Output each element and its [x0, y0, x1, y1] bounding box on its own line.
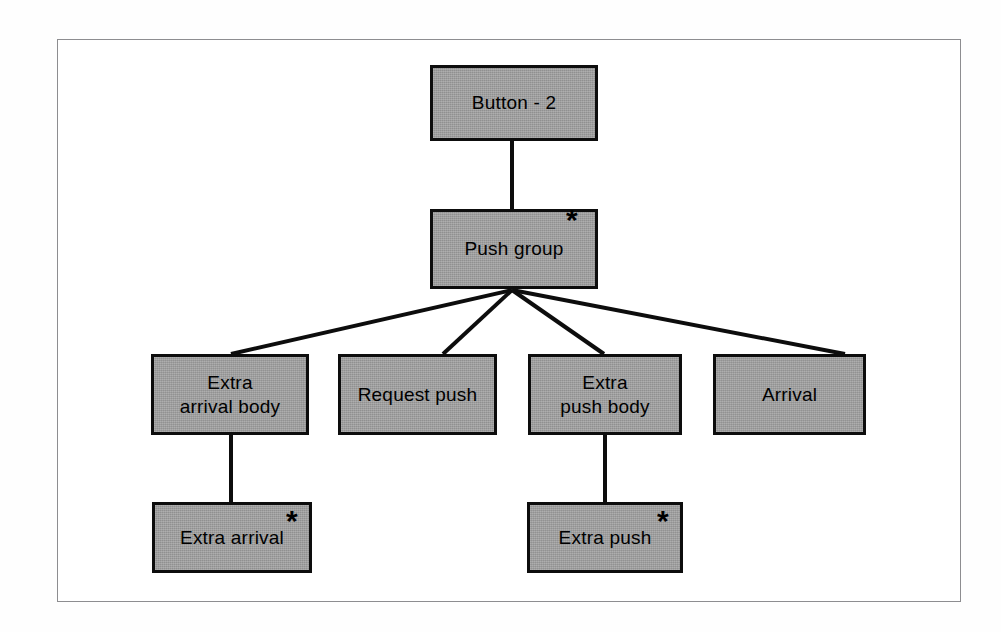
node-button-2[interactable]: Button - 2: [430, 65, 598, 141]
asterisk-marker-extra-push: *: [657, 506, 669, 536]
node-arrival[interactable]: Arrival: [713, 354, 866, 435]
asterisk-marker-push-group: *: [566, 205, 578, 235]
node-label: Extra arrival: [180, 526, 284, 549]
node-label: Arrival: [762, 383, 817, 406]
asterisk-marker-extra-arrival: *: [286, 506, 298, 536]
node-label: Extra push body: [560, 371, 649, 417]
diagram-page: Button - 2 Push group * Extra arrival bo…: [0, 0, 1001, 632]
node-request-push[interactable]: Request push: [338, 354, 497, 435]
node-extra-arrival-body[interactable]: Extra arrival body: [151, 354, 309, 435]
node-label: Extra push: [559, 526, 652, 549]
node-extra-push-body[interactable]: Extra push body: [528, 354, 682, 435]
node-label: Extra arrival body: [180, 371, 281, 417]
node-label: Button - 2: [472, 91, 556, 114]
node-label: Request push: [358, 383, 478, 406]
node-label: Push group: [464, 237, 563, 260]
